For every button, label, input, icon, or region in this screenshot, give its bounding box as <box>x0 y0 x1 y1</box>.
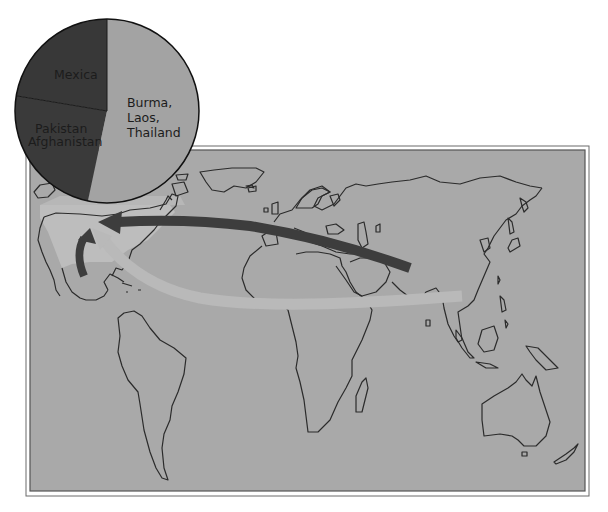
pie-slice-mexico <box>16 19 107 111</box>
pie-label-burma-1: Burma, <box>127 95 172 110</box>
pie-chart: Mexica Burma, Laos, Thailand Pakistan Af… <box>15 19 199 203</box>
figure: Mexica Burma, Laos, Thailand Pakistan Af… <box>0 0 608 512</box>
map-figure: Mexica Burma, Laos, Thailand Pakistan Af… <box>0 0 608 512</box>
pie-label-burma-2: Laos, <box>127 110 160 125</box>
pie-label-afghanistan: Afghanistan <box>28 134 102 149</box>
pie-label-mexico: Mexica <box>54 67 98 82</box>
pie-label-burma-3: Thailand <box>126 125 181 140</box>
